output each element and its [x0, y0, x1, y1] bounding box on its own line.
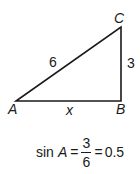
- vertex-label-b: B: [116, 102, 125, 116]
- formula-result: 0.5: [105, 144, 124, 160]
- formula-func: sin: [36, 144, 54, 160]
- formula-equals-1: =: [70, 144, 78, 160]
- fraction: 3 6: [81, 136, 91, 169]
- vertex-label-a: A: [8, 102, 17, 116]
- vertex-label-c: C: [114, 11, 124, 25]
- sine-formula: sin A = 3 6 = 0.5: [36, 134, 124, 170]
- formula-angle: A: [58, 144, 67, 160]
- fraction-numerator: 3: [83, 136, 91, 150]
- formula-equals-2: =: [94, 144, 102, 160]
- side-label-ab: x: [66, 103, 73, 117]
- side-label-bc: 3: [127, 56, 135, 70]
- triangle-abc: [16, 27, 121, 101]
- fraction-bar: [81, 152, 91, 153]
- side-label-ac: 6: [49, 55, 57, 69]
- fraction-denominator: 6: [83, 155, 91, 169]
